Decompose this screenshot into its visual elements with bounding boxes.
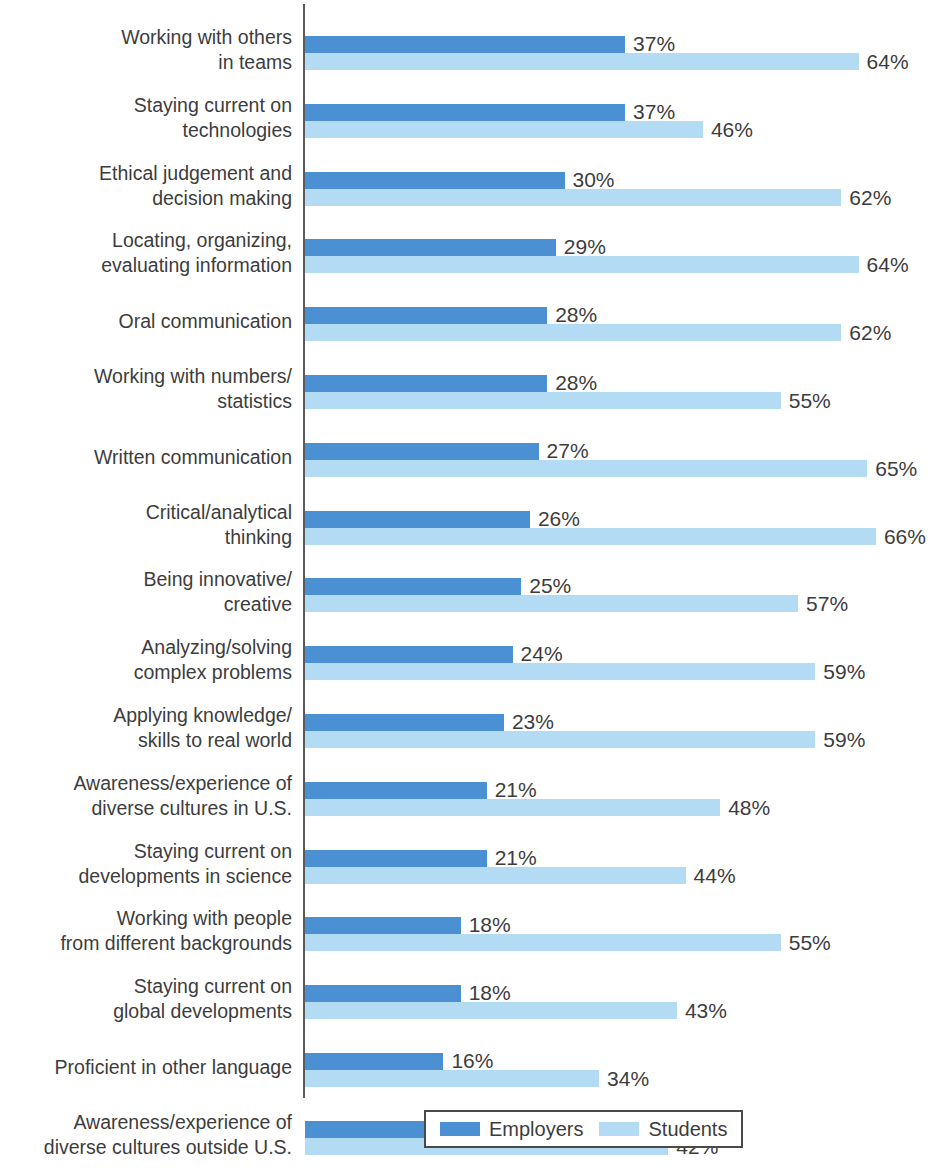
bar-group: 24%59%	[305, 635, 932, 703]
bar-students[interactable]	[305, 1070, 599, 1087]
bar-value-students: 59%	[823, 661, 865, 682]
bar-value-employers: 29%	[564, 236, 606, 257]
bar-value-employers: 18%	[469, 982, 511, 1003]
bar-group: 16%34%	[305, 1042, 932, 1110]
bar-value-employers: 21%	[495, 847, 537, 868]
bar-group: 25%57%	[305, 567, 932, 635]
bar-employers[interactable]	[305, 714, 504, 731]
bar-employers[interactable]	[305, 307, 547, 324]
chart-legend: EmployersStudents	[424, 1110, 743, 1148]
bar-value-employers: 28%	[555, 304, 597, 325]
bar-employers[interactable]	[305, 1121, 435, 1138]
category-label: Staying current on global developments	[0, 974, 292, 1024]
bar-value-students: 46%	[711, 119, 753, 140]
bar-value-employers: 21%	[495, 779, 537, 800]
legend-item-employers[interactable]: Employers	[440, 1119, 583, 1139]
bar-group: 26%66%	[305, 500, 932, 568]
bar-students[interactable]	[305, 53, 859, 70]
chart-title-cropped	[0, 0, 932, 2]
chart-row: Oral communication28%62%	[0, 296, 932, 364]
bar-value-students: 55%	[789, 390, 831, 411]
legend-label: Employers	[489, 1119, 583, 1139]
category-label: Awareness/experience of diverse cultures…	[0, 771, 292, 821]
bar-employers[interactable]	[305, 985, 461, 1002]
bar-students[interactable]	[305, 528, 876, 545]
category-label: Applying knowledge/ skills to real world	[0, 703, 292, 753]
legend-swatch-employers-icon	[440, 1122, 480, 1136]
bar-value-employers: 37%	[633, 101, 675, 122]
chart-row: Applying knowledge/ skills to real world…	[0, 703, 932, 771]
bar-value-students: 44%	[694, 865, 736, 886]
category-label: Awareness/experience of diverse cultures…	[0, 1110, 292, 1160]
bar-group: 21%44%	[305, 839, 932, 907]
bar-students[interactable]	[305, 324, 841, 341]
category-label: Working with people from different backg…	[0, 906, 292, 956]
bar-group: 27%65%	[305, 432, 932, 500]
bar-employers[interactable]	[305, 578, 521, 595]
bar-value-students: 62%	[849, 187, 891, 208]
bar-employers[interactable]	[305, 511, 530, 528]
bar-employers[interactable]	[305, 443, 539, 460]
bar-value-employers: 24%	[521, 643, 563, 664]
bar-students[interactable]	[305, 460, 867, 477]
category-label: Oral communication	[0, 309, 292, 334]
bar-value-employers: 37%	[633, 33, 675, 54]
chart-row: Locating, organizing, evaluating informa…	[0, 228, 932, 296]
bar-students[interactable]	[305, 799, 720, 816]
legend-label: Students	[648, 1119, 727, 1139]
bar-value-students: 43%	[685, 1000, 727, 1021]
category-label: Working with others in teams	[0, 25, 292, 75]
chart-row: Staying current on technologies37%46%	[0, 93, 932, 161]
bar-employers[interactable]	[305, 104, 625, 121]
category-label: Critical/analytical thinking	[0, 500, 292, 550]
bar-employers[interactable]	[305, 646, 513, 663]
bar-employers[interactable]	[305, 375, 547, 392]
bar-value-students: 66%	[884, 526, 926, 547]
bar-students[interactable]	[305, 256, 859, 273]
category-label: Analyzing/solving complex problems	[0, 635, 292, 685]
bar-students[interactable]	[305, 867, 686, 884]
bar-students[interactable]	[305, 731, 815, 748]
bar-value-employers: 27%	[547, 440, 589, 461]
bar-value-students: 62%	[849, 322, 891, 343]
bar-group: 23%59%	[305, 703, 932, 771]
category-label: Staying current on developments in scien…	[0, 839, 292, 889]
bar-employers[interactable]	[305, 172, 565, 189]
bar-value-employers: 18%	[469, 914, 511, 935]
bar-group: 37%64%	[305, 25, 932, 93]
legend-swatch-students-icon	[599, 1122, 639, 1136]
chart-row: Staying current on developments in scien…	[0, 839, 932, 907]
bar-employers[interactable]	[305, 782, 487, 799]
category-label: Written communication	[0, 445, 292, 470]
bar-students[interactable]	[305, 189, 841, 206]
category-label: Being innovative/ creative	[0, 567, 292, 617]
bar-value-employers: 16%	[451, 1050, 493, 1071]
bar-value-employers: 23%	[512, 711, 554, 732]
legend-item-students[interactable]: Students	[599, 1119, 727, 1139]
bar-students[interactable]	[305, 934, 781, 951]
bar-value-students: 59%	[823, 729, 865, 750]
bar-students[interactable]	[305, 1002, 677, 1019]
category-label: Staying current on technologies	[0, 93, 292, 143]
bar-value-students: 65%	[875, 458, 917, 479]
bar-value-employers: 26%	[538, 508, 580, 529]
bar-students[interactable]	[305, 663, 815, 680]
bar-students[interactable]	[305, 121, 703, 138]
bar-employers[interactable]	[305, 917, 461, 934]
bar-employers[interactable]	[305, 239, 556, 256]
bar-employers[interactable]	[305, 36, 625, 53]
chart-row: Proficient in other language16%34%	[0, 1042, 932, 1110]
bar-employers[interactable]	[305, 850, 487, 867]
bar-group: 29%64%	[305, 228, 932, 296]
bar-group: 18%55%	[305, 906, 932, 974]
bar-group: 30%62%	[305, 161, 932, 229]
category-label: Ethical judgement and decision making	[0, 161, 292, 211]
bar-value-students: 48%	[728, 797, 770, 818]
bar-students[interactable]	[305, 595, 798, 612]
bar-employers[interactable]	[305, 1053, 443, 1070]
bar-value-students: 34%	[607, 1068, 649, 1089]
chart-row: Critical/analytical thinking26%66%	[0, 500, 932, 568]
chart-row: Analyzing/solving complex problems24%59%	[0, 635, 932, 703]
bar-students[interactable]	[305, 392, 781, 409]
chart-row: Working with others in teams37%64%	[0, 25, 932, 93]
